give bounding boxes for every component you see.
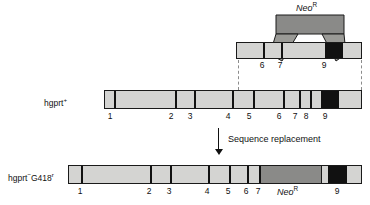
construct-exon-label-7: 7	[276, 61, 284, 70]
targeted-label-a-text: hgprt	[8, 173, 27, 183]
sequence-replacement-arrow-line	[218, 128, 219, 150]
construct-exon9-box	[325, 43, 343, 58]
sequence-replacement-caption: Sequence replacement	[228, 135, 321, 144]
targeted-exon-tick-4	[208, 166, 210, 183]
targeted-allele-label: hgprt−G418r	[8, 172, 54, 182]
targeted-exon-label-1: 1	[76, 187, 84, 196]
targeted-neo-label: NeoR	[277, 186, 298, 197]
targeted-exon-label-2: 2	[145, 187, 153, 196]
wildtype-exon-label-9: 9	[321, 112, 329, 121]
alignment-guide-right	[361, 60, 362, 90]
wildtype-exon9-box	[321, 91, 339, 108]
construct-exon-tick-7	[281, 43, 283, 58]
wildtype-exon-tick-7	[299, 91, 301, 108]
wildtype-allele-bar	[104, 90, 362, 109]
targeted-exon-label-5: 5	[224, 187, 232, 196]
wildtype-exon-label-3: 3	[186, 112, 194, 121]
construct-neo-label: NeoR	[296, 2, 317, 13]
wildtype-exon-tick-6	[283, 91, 285, 108]
construct-homology-bar	[236, 42, 362, 59]
wildtype-exon-label-6: 6	[275, 112, 283, 121]
wildtype-allele-label: hgprt+	[44, 97, 67, 107]
construct-exon-label-6: 6	[258, 61, 266, 70]
targeted-neo-sup: R	[294, 185, 299, 192]
wildtype-exon-tick-1	[114, 91, 116, 108]
targeted-exon-tick-1	[81, 166, 83, 183]
wildtype-label-sup: +	[63, 96, 67, 103]
targeted-label-b-sup: r	[52, 171, 54, 178]
construct-exon-label-9: 9	[320, 61, 328, 70]
targeted-neo-text: Neo	[277, 187, 294, 197]
wildtype-label-text: hgprt	[44, 98, 63, 108]
targeted-exon-label-9: 9	[333, 187, 341, 196]
wildtype-exon-tick-5	[253, 91, 255, 108]
wildtype-exon-label-7: 7	[291, 112, 299, 121]
wildtype-exon-label-4: 4	[224, 112, 232, 121]
construct-neo-text: Neo	[296, 3, 313, 13]
targeted-exon-tick-6	[247, 166, 249, 183]
targeted-label-b-text: G418	[31, 173, 52, 183]
wildtype-exon-label-2: 2	[167, 112, 175, 121]
targeted-allele-bar	[68, 165, 362, 184]
sequence-replacement-arrow-head	[215, 149, 223, 155]
wildtype-exon-tick-8	[310, 91, 312, 108]
wildtype-exon-tick-3	[194, 91, 196, 108]
targeted-exon-label-6: 6	[242, 187, 250, 196]
wildtype-exon-label-8: 8	[302, 112, 310, 121]
wildtype-exon-label-5: 5	[245, 112, 253, 121]
targeted-exon-tick-5	[229, 166, 231, 183]
wildtype-exon-label-1: 1	[106, 112, 114, 121]
targeted-exon-label-3: 3	[165, 187, 173, 196]
construct-exon-tick-6	[263, 43, 265, 58]
targeted-exon-tick-7	[259, 166, 261, 183]
targeted-exon-tick-2	[150, 166, 152, 183]
alignment-guide-left	[238, 60, 239, 90]
targeted-exon-label-4: 4	[203, 187, 211, 196]
targeted-neo-cassette	[260, 166, 322, 183]
targeted-exon-tick-3	[170, 166, 172, 183]
wildtype-exon-tick-2	[175, 91, 177, 108]
gene-targeting-diagram: NeoR 6 7 9 hgprt+ 1	[0, 0, 370, 205]
neo-cassette-block	[276, 15, 344, 34]
wildtype-exon-tick-4	[232, 91, 234, 108]
construct-neo-sup: R	[313, 1, 318, 8]
targeted-exon-label-7: 7	[254, 187, 262, 196]
targeted-exon9-box	[328, 166, 347, 183]
